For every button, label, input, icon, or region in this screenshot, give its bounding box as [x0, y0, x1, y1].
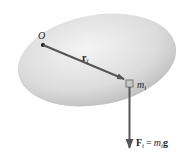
rigid-body [10, 2, 183, 118]
force-label: Fi=mig [136, 137, 168, 150]
origin-label: O [38, 30, 45, 41]
mass-element-box [126, 80, 133, 87]
rigid-body-diagram: O ri mi Fi=mig [0, 0, 184, 160]
